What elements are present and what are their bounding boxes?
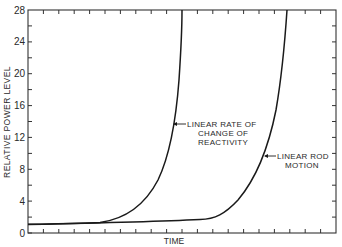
chart-canvas: 0 4 8 12 16 20 24 28 RELATIVE POWER LEVE…: [0, 0, 342, 247]
y-tick-label: 20: [14, 68, 26, 79]
annotation-line: MOTION: [285, 161, 319, 170]
annotation-line: REACTIVITY: [198, 138, 248, 147]
y-tick-label: 24: [14, 36, 26, 47]
y-axis-title: RELATIVE POWER LEVEL: [2, 66, 12, 178]
series-reactivity-curve: [28, 10, 182, 224]
annotation-line: LINEAR ROD: [277, 152, 329, 161]
series-rod-motion-curve: [28, 10, 287, 225]
annotation-line: CHANGE OF: [198, 129, 248, 138]
y-tick-label: 8: [19, 164, 25, 175]
annotation-line: LINEAR RATE OF: [187, 120, 256, 129]
annotation-rod-motion: LINEAR ROD MOTION: [264, 152, 329, 170]
y-tick-label: 12: [14, 132, 26, 143]
plot-frame: [28, 10, 336, 233]
y-axis-ticks-left: [28, 26, 32, 233]
y-tick-labels: 0 4 8 12 16 20 24 28: [14, 5, 26, 239]
arrowhead-icon: [264, 154, 268, 158]
x-axis-ticks-bottom: [43, 229, 320, 233]
annotation-reactivity: LINEAR RATE OF CHANGE OF REACTIVITY: [173, 120, 256, 147]
x-axis-title: TIME: [164, 236, 185, 246]
y-tick-label: 0: [19, 228, 25, 239]
y-axis-ticks-right: [332, 26, 336, 217]
y-tick-label: 28: [14, 5, 26, 16]
y-tick-label: 4: [19, 196, 25, 207]
y-tick-label: 16: [14, 100, 26, 111]
